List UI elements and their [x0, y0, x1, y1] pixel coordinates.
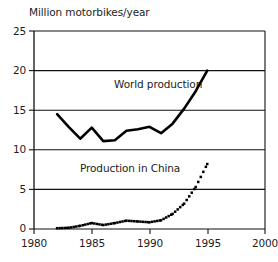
series-dots-production-in-china: [56, 163, 209, 230]
axis-spines: [34, 31, 265, 229]
axis-ticks: [29, 31, 265, 234]
plot-area: [0, 0, 278, 262]
chart-container: Million motorbikes/year 25 20 15 10 5 0 …: [0, 0, 278, 262]
series-line-world-production: [57, 71, 207, 141]
gridlines: [34, 31, 265, 229]
